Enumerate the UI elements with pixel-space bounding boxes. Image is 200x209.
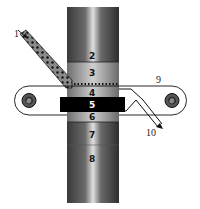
feed-tube <box>18 30 72 88</box>
left-roller <box>22 94 36 108</box>
label-section-7: 7 <box>89 130 95 140</box>
label-feed-tube: 1 <box>14 28 19 39</box>
right-roller <box>165 94 179 108</box>
label-section-5: 5 <box>89 100 95 110</box>
label-section-4: 4 <box>89 88 95 98</box>
label-section-6: 6 <box>89 112 95 122</box>
label-outlet: 10 <box>146 127 156 138</box>
label-section-2: 2 <box>89 51 95 61</box>
apparatus-diagram: 2 3 4 5 6 7 8 1 9 10 <box>0 0 200 209</box>
outlet-tube <box>119 89 163 130</box>
label-section-3: 3 <box>89 68 95 78</box>
label-belt: 9 <box>156 74 161 85</box>
label-section-8: 8 <box>89 154 95 164</box>
